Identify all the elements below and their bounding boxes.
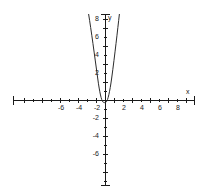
coordinate-plane-graph: -6 -4 -2 2 4 6 8 8 6 4 2 -2 -4 -6 x y [0, 0, 202, 195]
y-tick-label-6: 6 [85, 33, 99, 41]
x-tick-label-6: 6 [151, 104, 169, 112]
x-tick-label-minus-6: -6 [52, 104, 70, 112]
y-tick-label-minus-6: -6 [83, 150, 99, 158]
x-tick-label-2: 2 [115, 104, 133, 112]
y-tick-label-2: 2 [85, 69, 99, 77]
y-tick-label-4: 4 [85, 51, 99, 59]
plot-canvas [0, 0, 202, 195]
x-tick-label-minus-2: -2 [88, 104, 106, 112]
x-axis-label: x [186, 88, 190, 96]
y-tick-label-8: 8 [85, 15, 99, 23]
x-tick-label-8: 8 [169, 104, 187, 112]
x-tick-label-minus-4: -4 [70, 104, 88, 112]
y-axis-label: y [108, 14, 112, 22]
y-tick-label-minus-4: -4 [83, 132, 99, 140]
x-tick-label-4: 4 [133, 104, 151, 112]
y-tick-label-minus-2: -2 [83, 114, 99, 122]
